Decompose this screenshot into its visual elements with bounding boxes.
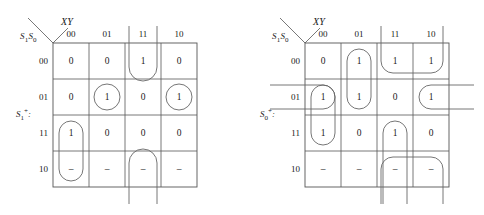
right-cell-r2c2: 1: [377, 128, 413, 138]
left-cell-r3c3: –: [161, 164, 197, 174]
right-cell-r0c0: 0: [305, 56, 341, 66]
right-cell-r1c0: 1: [305, 92, 341, 102]
right-col-header-0: 00: [305, 29, 341, 39]
right-cell-r1c1: 1: [341, 92, 377, 102]
right-row-variable-label: S1S0: [272, 31, 289, 44]
right-row-header-2: 11: [274, 128, 300, 138]
left-cell-r1c1: 1: [89, 92, 125, 102]
left-cell-r3c2: –: [125, 164, 161, 174]
right-cell-r0c1: 1: [341, 56, 377, 66]
right-row-header-1: 01: [274, 92, 300, 102]
left-cell-r2c1: 0: [89, 128, 125, 138]
left-row-header-0: 00: [22, 56, 48, 66]
left-col-variable-label: XY: [61, 16, 73, 27]
left-cell-r0c1: 0: [89, 56, 125, 66]
right-cell-r3c1: –: [341, 164, 377, 174]
right-col-header-2: 11: [377, 29, 413, 39]
right-cell-r1c3: 1: [413, 92, 449, 102]
left-cell-r0c2: 1: [125, 56, 161, 66]
left-cell-r2c0: 1: [53, 128, 89, 138]
right-cell-r3c0: –: [305, 164, 341, 174]
left-col-header-1: 01: [89, 29, 125, 39]
left-cell-r1c0: 0: [53, 92, 89, 102]
right-cell-r3c2: –: [377, 164, 413, 174]
right-cell-r2c1: 0: [341, 128, 377, 138]
left-cell-r3c0: –: [53, 164, 89, 174]
left-row-variable-label: S1S0: [20, 31, 37, 44]
right-cell-r2c3: 0: [413, 128, 449, 138]
right-cell-r0c2: 1: [377, 56, 413, 66]
left-cell-r2c2: 0: [125, 128, 161, 138]
kmap-left-s1-next: XY S1S0 S1+: 00 01 11 10 00 01 11 10 0 0…: [0, 0, 242, 215]
left-col-header-0: 00: [53, 29, 89, 39]
right-cell-r1c2: 0: [377, 92, 413, 102]
left-row-header-2: 11: [22, 128, 48, 138]
left-output-label: S1+:: [16, 107, 31, 122]
kmap-figure: XY S1S0 S1+: 00 01 11 10 00 01 11 10 0 0…: [0, 0, 484, 215]
left-cell-r1c3: 1: [161, 92, 197, 102]
right-cell-r3c3: –: [413, 164, 449, 174]
right-col-header-1: 01: [341, 29, 377, 39]
right-row-header-0: 00: [274, 56, 300, 66]
left-row-header-1: 01: [22, 92, 48, 102]
right-row-header-3: 10: [274, 164, 300, 174]
left-cell-r2c3: 0: [161, 128, 197, 138]
right-col-header-3: 10: [413, 29, 449, 39]
left-cell-r0c0: 0: [53, 56, 89, 66]
right-cell-r0c3: 1: [413, 56, 449, 66]
left-cell-r3c1: –: [89, 164, 125, 174]
right-cell-r2c0: 1: [305, 128, 341, 138]
right-col-variable-label: XY: [313, 16, 325, 27]
right-output-label: S0+:: [260, 107, 275, 122]
left-row-header-3: 10: [22, 164, 48, 174]
left-cell-r1c2: 0: [125, 92, 161, 102]
left-col-header-2: 11: [125, 29, 161, 39]
left-cell-r0c3: 0: [161, 56, 197, 66]
kmap-right-s0-next: XY S1S0 S0+: 00 01 11 10 00 01 11 10 0 1…: [242, 0, 484, 215]
left-col-header-3: 10: [161, 29, 197, 39]
